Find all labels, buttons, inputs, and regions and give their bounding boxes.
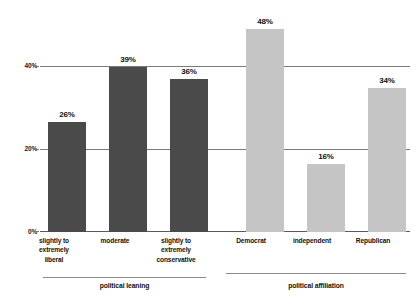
bar-value-label-liberal: 26%: [48, 111, 86, 119]
category-label-conservative: slightly to extremely conservative: [143, 236, 209, 264]
bar-value-label-conservative: 36%: [170, 68, 208, 76]
category-label-independent-line1: independent: [280, 236, 344, 245]
category-label-republican-line1: Republican: [341, 236, 405, 245]
y-axis: 40% 20% 0%: [0, 20, 37, 232]
y-tick-mark-20: [33, 149, 39, 150]
category-label-conservative-line1: slightly to: [143, 236, 209, 245]
gridline-40: [40, 66, 410, 67]
category-label-moderate-line1: moderate: [83, 236, 147, 245]
plot-area: 26% 39% 36% 48% 16% 34%: [40, 20, 410, 232]
bar-moderate[interactable]: [109, 67, 147, 232]
bar-democrat[interactable]: [246, 29, 284, 233]
axis-baseline: [40, 231, 410, 232]
category-label-liberal-line1: slightly to: [22, 236, 86, 245]
group-label-political-affiliation: political affiliation: [226, 283, 406, 290]
category-label-republican: Republican: [341, 236, 405, 245]
category-label-conservative-line2: extremely: [143, 245, 209, 254]
bar-slightly-to-extremely-liberal[interactable]: [48, 122, 86, 232]
category-label-liberal: slightly to extremely liberal: [22, 236, 86, 264]
group-label-political-leaning: political leaning: [43, 283, 206, 290]
bar-slightly-to-extremely-conservative[interactable]: [170, 79, 208, 232]
group-rule-political-leaning: [43, 277, 206, 278]
bar-value-label-democrat: 48%: [246, 18, 284, 26]
category-label-independent: independent: [280, 236, 344, 245]
y-tick-mark-40: [33, 66, 39, 67]
category-label-democrat: Democrat: [219, 236, 283, 245]
bar-value-label-moderate: 39%: [109, 56, 147, 64]
category-label-democrat-line1: Democrat: [219, 236, 283, 245]
bar-chart: 40% 20% 0% 26% 39% 36% 48% 16% 34% sligh…: [0, 0, 419, 307]
bar-value-label-republican: 34%: [368, 77, 406, 85]
bar-independent[interactable]: [307, 164, 345, 232]
bar-republican[interactable]: [368, 88, 406, 232]
group-rule-political-affiliation: [226, 273, 406, 274]
category-label-conservative-line3: conservative: [143, 255, 209, 264]
category-label-liberal-line2: extremely: [22, 245, 86, 254]
category-label-liberal-line3: liberal: [22, 255, 86, 264]
category-label-moderate: moderate: [83, 236, 147, 245]
gridline-20: [40, 149, 410, 150]
bar-value-label-independent: 16%: [307, 153, 345, 161]
y-tick-mark-0: [33, 231, 39, 232]
